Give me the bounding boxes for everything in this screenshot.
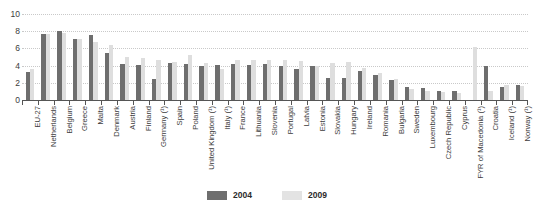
x-label-cell: Austria (117, 106, 133, 168)
bar-2009 (441, 92, 445, 100)
x-label-cell: Spain (164, 106, 180, 168)
bar-group (180, 14, 196, 100)
bar-group (164, 14, 180, 100)
bar-group (196, 14, 212, 100)
bar-group (512, 14, 528, 100)
x-label-cell: Denmark (101, 106, 117, 168)
x-label-cell: Greece (69, 106, 85, 168)
bar-2009 (457, 93, 461, 100)
bar-2009 (299, 61, 303, 100)
bar-group (243, 14, 259, 100)
bar-2009 (141, 58, 145, 100)
x-label-cell: Belgium (54, 106, 70, 168)
bar-group (465, 14, 481, 100)
bar-group (433, 14, 449, 100)
bar-group (370, 14, 386, 100)
bar-2009 (473, 47, 477, 100)
legend-swatch-icon (207, 191, 227, 200)
x-label-cell: France (228, 106, 244, 168)
bar-2009 (267, 60, 271, 100)
bar-2009 (188, 55, 192, 100)
bar-2009 (378, 73, 382, 100)
bar-2009 (30, 69, 34, 100)
bar-2009 (62, 33, 66, 100)
x-label-cell: Slovakia (322, 106, 338, 168)
bar-2009 (409, 89, 413, 100)
bar-2009 (204, 63, 208, 100)
x-label-cell: United Kingdom (¹) (196, 106, 212, 168)
bar-group (54, 14, 70, 100)
x-label-cell: Romania (370, 106, 386, 168)
bar-2009 (283, 60, 287, 100)
chart-legend: 20042009 (0, 191, 534, 200)
x-label-cell: Poland (180, 106, 196, 168)
bar-2009 (330, 63, 334, 100)
x-label-cell: Croatia (481, 106, 497, 168)
x-label-cell: Estonia (307, 106, 323, 168)
bar-group (291, 14, 307, 100)
bar-group (481, 14, 497, 100)
bar-2009 (156, 60, 160, 100)
bar-group (228, 14, 244, 100)
x-label-cell: Lithuania (243, 106, 259, 168)
bar-group (117, 14, 133, 100)
bar-2009 (425, 91, 429, 100)
x-label-cell: Sweden (402, 106, 418, 168)
x-axis-labels: EU-27NetherlandsBelgiumGreeceMaltaDenmar… (22, 106, 528, 168)
bar-2009 (109, 45, 113, 100)
bar-2009 (346, 62, 350, 100)
y-axis: 0246810 (0, 14, 20, 100)
legend-item-2009[interactable]: 2009 (282, 191, 327, 200)
y-tick-label-8: 8 (2, 27, 20, 36)
bar-group (259, 14, 275, 100)
bar-group (449, 14, 465, 100)
x-label-cell: Latvia (291, 106, 307, 168)
bar-group (307, 14, 323, 100)
y-tick-label-4: 4 (2, 62, 20, 71)
bar-2009 (251, 60, 255, 100)
bar-series-group (22, 14, 528, 100)
bar-group (22, 14, 38, 100)
bar-2009 (235, 60, 239, 100)
x-label-cell: Finland (133, 106, 149, 168)
bar-2009 (520, 86, 524, 100)
legend-swatch-icon (282, 191, 302, 200)
bar-2009 (315, 66, 319, 100)
legend-item-2004[interactable]: 2004 (207, 191, 252, 200)
x-axis-label: Norway (¹) (524, 106, 532, 141)
bar-group (417, 14, 433, 100)
legend-label: 2009 (308, 191, 327, 200)
bar-group (386, 14, 402, 100)
x-label-cell: EU-27 (22, 106, 38, 168)
bar-group (133, 14, 149, 100)
bar-2009 (46, 34, 50, 100)
y-tick-label-2: 2 (2, 79, 20, 88)
bar-group (354, 14, 370, 100)
x-label-cell: Iceland (¹) (496, 106, 512, 168)
bar-group (275, 14, 291, 100)
bar-group (85, 14, 101, 100)
bar-2009 (394, 79, 398, 100)
bar-2009 (504, 85, 508, 100)
bar-group (338, 14, 354, 100)
bar-group (69, 14, 85, 100)
x-label-cell: Germany (¹) (149, 106, 165, 168)
x-label-cell: Cyprus (449, 106, 465, 168)
bar-2009 (362, 68, 366, 100)
x-label-cell: Italy (¹) (212, 106, 228, 168)
bar-group (149, 14, 165, 100)
bar-group (212, 14, 228, 100)
x-label-cell: Portugal (275, 106, 291, 168)
bar-group (322, 14, 338, 100)
x-label-cell: Slovenia (259, 106, 275, 168)
x-label-cell: Malta (85, 106, 101, 168)
x-label-cell: FYR of Macedonia (¹) (465, 106, 481, 168)
bar-2009 (125, 57, 129, 100)
y-tick-label-0: 0 (2, 96, 20, 105)
bar-2009 (488, 91, 492, 100)
plot-area (22, 14, 528, 100)
bar-group (101, 14, 117, 100)
legend-label: 2004 (233, 191, 252, 200)
x-label-cell: Ireland (354, 106, 370, 168)
y-tick-label-6: 6 (2, 44, 20, 53)
